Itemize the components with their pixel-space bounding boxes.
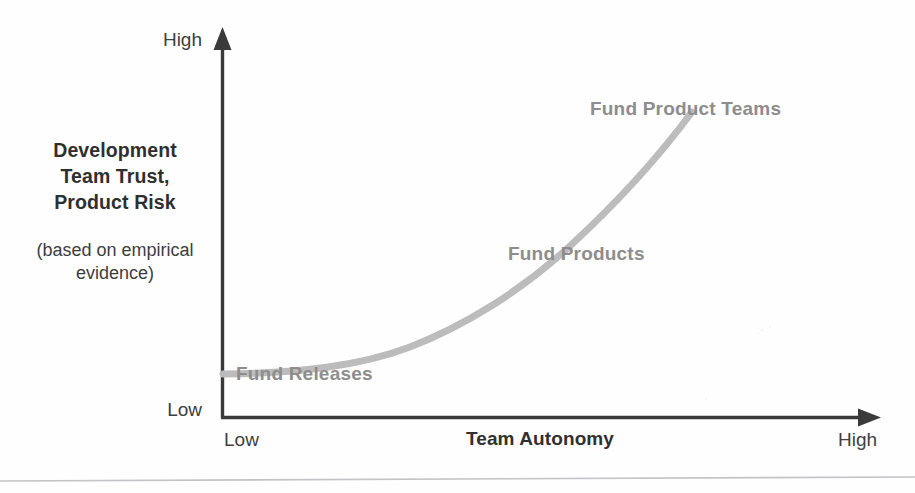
curve-label-fund-product-teams: Fund Product Teams	[590, 98, 781, 120]
x-axis-title: Team Autonomy	[420, 427, 660, 450]
funding-autonomy-figure: DevelopmentTeam Trust,Product Risk (base…	[0, 0, 915, 493]
y-axis-title-line3: Product Risk	[54, 191, 175, 213]
curve-label-fund-products: Fund Products	[508, 243, 645, 265]
curve-label-fund-releases: Fund Releases	[236, 363, 373, 385]
y-axis-subtitle-line1: (based on empirical	[36, 240, 193, 260]
y-axis-subtitle-line2: evidence)	[76, 263, 154, 283]
y-axis-arrowhead-icon	[214, 27, 232, 50]
y-axis-tick-high: High	[122, 28, 202, 51]
x-axis-arrowhead-icon	[858, 409, 881, 427]
page-divider-line	[0, 477, 915, 481]
x-axis-tick-low: Low	[224, 428, 259, 451]
x-axis-tick-high: High	[838, 428, 877, 451]
y-axis-subtitle: (based on empiricalevidence)	[14, 239, 216, 286]
y-axis-title: DevelopmentTeam Trust,Product Risk	[22, 137, 208, 215]
y-axis-tick-low: Low	[122, 398, 202, 421]
y-axis-title-line2: Team Trust,	[60, 165, 169, 187]
y-axis-title-line1: Development	[53, 139, 177, 161]
